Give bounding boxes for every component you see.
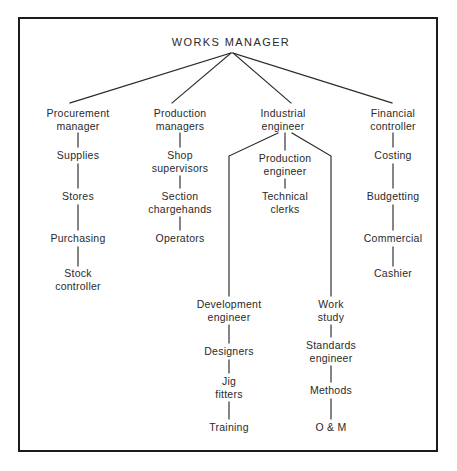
node-supplies: Supplies [57, 149, 99, 162]
org-chart-page: WORKS MANAGER Procurement manager Suppli… [0, 0, 457, 471]
node-methods: Methods [310, 384, 352, 397]
node-training: Training [209, 421, 249, 434]
node-industrial-engineer: Industrial engineer [260, 107, 305, 132]
node-section-chargehands: Section chargehands [148, 190, 211, 215]
node-work-study: Work study [318, 298, 344, 323]
node-stock-controller: Stock controller [55, 267, 101, 292]
node-costing: Costing [374, 149, 411, 162]
node-shop-supervisors: Shop supervisors [152, 149, 208, 174]
node-financial-controller: Financial controller [370, 107, 416, 132]
node-standards-engineer: Standards engineer [306, 339, 356, 364]
node-technical-clerks: Technical clerks [262, 190, 308, 215]
node-budgetting: Budgetting [367, 190, 420, 203]
node-production-managers: Production managers [154, 107, 207, 132]
node-operators: Operators [156, 232, 205, 245]
node-designers: Designers [204, 345, 254, 358]
node-procurement-manager: Procurement manager [47, 107, 110, 132]
node-jig-fitters: Jig fitters [215, 375, 242, 400]
node-works-manager: WORKS MANAGER [172, 36, 290, 49]
node-purchasing: Purchasing [50, 232, 105, 245]
node-development-engineer: Development engineer [197, 298, 262, 323]
node-o-and-m: O & M [315, 421, 346, 434]
node-cashier: Cashier [374, 267, 412, 280]
node-stores: Stores [62, 190, 94, 203]
node-production-engineer: Production engineer [259, 152, 312, 177]
node-commercial: Commercial [364, 232, 423, 245]
